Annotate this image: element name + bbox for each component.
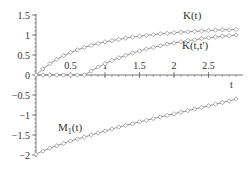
diamond-marker	[179, 110, 183, 114]
diamond-marker	[110, 58, 114, 62]
diamond-marker	[117, 37, 121, 41]
diamond-marker	[227, 34, 231, 38]
diamond-marker	[234, 33, 238, 37]
diamond-marker	[165, 31, 169, 35]
y-tick-label: −1.5	[12, 130, 30, 141]
y-tick-label: −2	[19, 150, 30, 161]
y-tick-label: 0	[25, 70, 30, 81]
diamond-marker	[144, 47, 148, 51]
diamond-marker	[89, 133, 93, 137]
diamond-marker	[89, 43, 93, 47]
diamond-marker	[213, 102, 217, 106]
diamond-marker	[158, 44, 162, 48]
diamond-marker	[55, 144, 59, 148]
diamond-marker	[75, 137, 79, 141]
diamond-marker	[137, 120, 141, 124]
m1-label: M1(t)	[58, 121, 83, 136]
diamond-marker	[213, 28, 217, 32]
diamond-marker	[48, 146, 52, 150]
diamond-marker	[137, 34, 141, 38]
diamond-marker	[103, 129, 107, 133]
diamond-marker	[193, 107, 197, 111]
y-tick-label: −0.5	[12, 90, 30, 101]
diamond-marker	[130, 35, 134, 39]
x-tick-label: 2.5	[202, 60, 215, 71]
diamond-marker	[55, 57, 59, 61]
k-t-label: K(t)	[183, 9, 202, 22]
diamond-marker	[96, 41, 100, 45]
diamond-marker	[96, 131, 100, 135]
diamond-marker	[130, 51, 134, 55]
diamond-marker	[206, 104, 210, 108]
diamond-marker	[34, 152, 38, 156]
x-tick-label: 2	[172, 60, 177, 71]
diamond-marker	[89, 69, 93, 73]
diamond-marker	[172, 30, 176, 34]
diamond-marker	[82, 73, 86, 77]
x-tick-label: 0.5	[64, 60, 77, 71]
diamond-marker	[227, 99, 231, 103]
diamond-marker	[234, 27, 238, 31]
k-tt-label: K(t,t')	[182, 39, 208, 52]
diamond-marker	[96, 65, 100, 69]
diamond-marker	[110, 38, 114, 42]
diamond-marker	[55, 73, 59, 77]
diamond-marker	[151, 45, 155, 49]
diamond-marker	[61, 141, 65, 145]
diamond-marker	[151, 32, 155, 36]
chart: 0.511.522.51.510.50−0.5−1−1.5−2 t K(t) K…	[0, 0, 252, 175]
diamond-marker	[144, 33, 148, 37]
diamond-marker	[193, 29, 197, 33]
y-tick-label: 1	[25, 30, 30, 41]
diamond-marker	[75, 48, 79, 52]
x-tick-label: 1.5	[133, 60, 146, 71]
diamond-marker	[117, 56, 121, 60]
diamond-marker	[172, 112, 176, 116]
diamond-marker	[234, 97, 238, 101]
diamond-marker	[199, 29, 203, 33]
diamond-marker	[206, 28, 210, 32]
diamond-marker	[158, 32, 162, 36]
m1-label-suffix: (t)	[72, 121, 83, 134]
diamond-marker	[165, 42, 169, 46]
diamond-marker	[82, 135, 86, 139]
diamond-marker	[103, 40, 107, 44]
diamond-marker	[130, 122, 134, 126]
diamond-marker	[151, 116, 155, 120]
diamond-marker	[186, 108, 190, 112]
diamond-marker	[82, 45, 86, 49]
diamond-marker	[41, 73, 45, 77]
diamond-marker	[124, 36, 128, 40]
diamond-marker	[68, 139, 72, 143]
y-tick-label: 0.5	[18, 50, 31, 61]
diamond-marker	[165, 113, 169, 117]
diamond-marker	[158, 115, 162, 119]
diamond-marker	[75, 73, 79, 77]
diamond-marker	[137, 49, 141, 53]
diamond-marker	[41, 149, 45, 153]
diamond-marker	[68, 73, 72, 77]
diamond-marker	[172, 41, 176, 45]
m1-label-main: M	[58, 121, 68, 133]
diamond-marker	[220, 28, 224, 32]
diamond-marker	[220, 34, 224, 38]
diamond-marker	[110, 127, 114, 131]
diamond-marker	[117, 125, 121, 129]
x-axis-label: t	[230, 79, 233, 90]
diamond-marker	[220, 100, 224, 104]
diamond-marker	[199, 105, 203, 109]
diamond-marker	[227, 28, 231, 32]
diamond-marker	[124, 53, 128, 57]
diamond-marker	[68, 50, 72, 54]
diamond-marker	[61, 54, 65, 58]
diamond-marker	[61, 73, 65, 77]
y-tick-label: 1.5	[18, 10, 31, 21]
diamond-marker	[213, 35, 217, 39]
diamond-marker	[124, 123, 128, 127]
diamond-marker	[144, 118, 148, 122]
diamond-marker	[48, 73, 52, 77]
y-tick-label: −1	[19, 110, 30, 121]
diamond-marker	[186, 30, 190, 34]
diamond-marker	[179, 30, 183, 34]
